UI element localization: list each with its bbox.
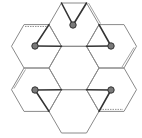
node-upper-left	[32, 43, 38, 49]
node-lower-left	[32, 87, 38, 93]
bonds	[35, 3, 111, 111]
double-line-lower-left-upper	[14, 70, 26, 89]
hexagon-center	[49, 46, 99, 89]
double-line-upper-right-lower	[122, 48, 134, 68]
node-lower-right	[108, 87, 114, 93]
double-bond-markers	[14, 3, 134, 109]
double-line-top-right	[89, 3, 101, 24]
node-upper-right	[108, 43, 114, 49]
bond-lower-left-down	[35, 90, 49, 111]
hexagon-bottom	[49, 90, 99, 133]
hexagon-cluster-diagram	[0, 0, 142, 138]
node-top	[70, 22, 76, 28]
bond-top-right	[73, 3, 87, 25]
bond-upper-left-up	[35, 25, 49, 46]
bond-top-left	[62, 3, 74, 25]
